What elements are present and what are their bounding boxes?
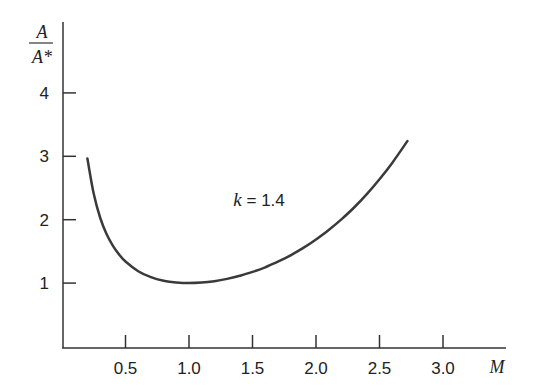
y-tick-label: 2 — [40, 211, 49, 230]
x-tick-label: 3.0 — [431, 359, 455, 378]
x-tick-label: 2.0 — [304, 359, 328, 378]
x-axis-label: M — [489, 357, 506, 377]
x-tick-label: 1.5 — [241, 359, 265, 378]
x-ticks: 0.51.01.52.02.53.0 — [114, 335, 455, 378]
y-axis-label-denominator: A* — [31, 47, 52, 67]
area-ratio-curve — [87, 141, 407, 283]
x-tick-label: 2.5 — [368, 359, 392, 378]
y-tick-label: 1 — [40, 274, 49, 293]
x-tick-label: 0.5 — [114, 359, 138, 378]
y-axis-label-numerator: A — [36, 22, 49, 42]
y-tick-label: 3 — [40, 147, 49, 166]
x-tick-label: 1.0 — [177, 359, 201, 378]
y-ticks: 1234 — [40, 84, 76, 293]
chart-canvas: A A* M 0.51.01.52.02.53.0 1234 k = 1.4 — [0, 0, 536, 388]
k-annotation: k = 1.4 — [233, 189, 284, 210]
y-tick-label: 4 — [40, 84, 49, 103]
